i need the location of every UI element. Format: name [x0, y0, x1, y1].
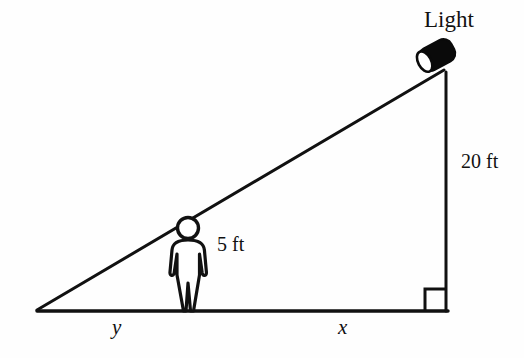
segment-label-x: x	[338, 317, 347, 338]
light-source-label: Light	[424, 8, 474, 31]
figure-canvas	[0, 0, 524, 358]
standing-person-icon	[170, 218, 206, 312]
streetlight-lamp-head-icon	[413, 36, 458, 75]
right-angle-marker-icon	[425, 289, 446, 310]
pole-height-label: 20 ft	[461, 151, 498, 171]
segment-label-y: y	[112, 317, 121, 338]
light-ray-hypotenuse	[37, 70, 444, 310]
shadow-geometry-figure: Light 20 ft 5 ft y x	[0, 0, 524, 358]
person-height-label: 5 ft	[217, 234, 244, 254]
